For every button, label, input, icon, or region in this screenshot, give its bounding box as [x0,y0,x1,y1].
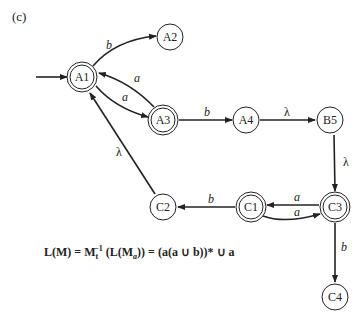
edge-label-c1-c3: a [294,205,300,219]
formula-m-sub: t [96,252,99,261]
edge-label-a4-b5: λ [284,105,290,119]
edge-labels: b a a b λ λ a a b λ b [106,38,349,254]
formula-lhs: L(M) = M [44,245,96,259]
state-c4: C4 [322,284,348,310]
automaton-diagram: (c) b a a b λ λ a a b λ [0,0,360,317]
edge-label-c1-c2: b [208,192,214,206]
formula-m-sup: −1 [94,244,103,253]
formula-rhs: )) = (a(a ∪ b))* ∪ a [137,245,235,259]
state-a3: A3 [148,105,178,135]
state-c3: C3 [320,192,350,222]
edge-c1-c3 [263,214,320,220]
state-a1: A1 [67,62,97,92]
state-a4: A4 [233,107,259,133]
svg-text:A2: A2 [163,30,178,44]
edge-a1-a2 [93,36,156,66]
formula-mid: (L(M [103,245,133,259]
state-a2: A2 [157,24,183,50]
svg-text:A3: A3 [156,113,171,127]
edge-label-a1-a3: a [122,90,128,104]
edge-label-a1-a2: b [106,38,112,52]
svg-text:A1: A1 [75,70,90,84]
edge-c2-a1 [90,93,155,194]
edge-label-a3-a1: a [134,71,140,85]
svg-text:C4: C4 [328,290,342,304]
edge-label-c3-c1: a [294,190,300,204]
state-b5: B5 [317,107,343,133]
state-c1: C1 [236,192,266,222]
edge-b5-c3 [334,135,335,191]
part-label: (c) [12,9,26,24]
edge-label-a3-a4: b [204,105,210,119]
edge-label-b5-c3: λ [343,155,349,169]
svg-text:C2: C2 [156,200,170,214]
svg-text:C3: C3 [328,200,342,214]
edge-label-c3-c4: b [341,240,347,254]
edge-label-c2-a1: λ [116,145,122,159]
svg-text:C1: C1 [244,200,258,214]
state-c2: C2 [150,194,176,220]
nodes: A1 A2 A3 A4 B5 C3 C1 C2 [67,24,350,310]
svg-text:B5: B5 [323,113,337,127]
language-formula: L(M) = Mt−1 (L(Ma)) = (a(a ∪ b))* ∪ a [44,244,235,261]
svg-text:A4: A4 [239,113,254,127]
